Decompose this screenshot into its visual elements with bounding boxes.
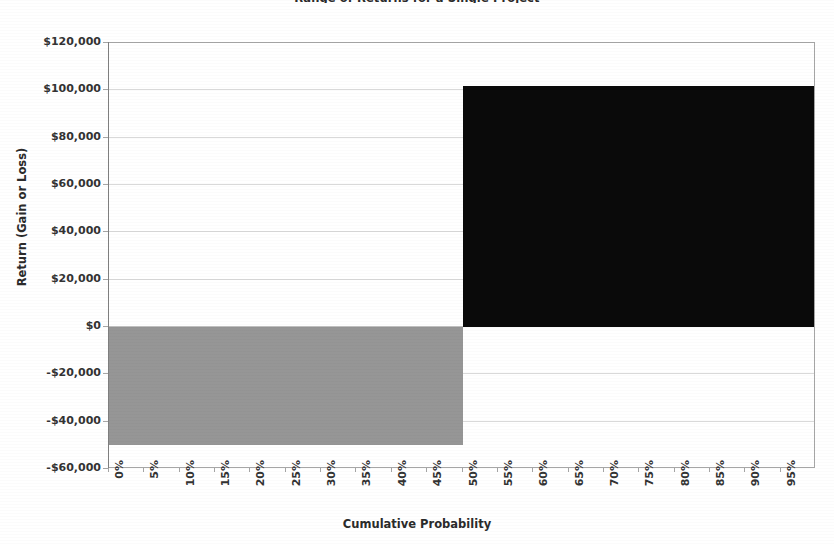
y-axis-tick-mark xyxy=(103,42,108,43)
cumulative-probability-chart: Range of Returns for a Single Project $1… xyxy=(0,0,834,544)
x-axis-tick-mark xyxy=(568,468,569,472)
x-axis-tick-label: 85% xyxy=(714,460,727,516)
x-axis-title: Cumulative Probability xyxy=(0,517,834,531)
y-axis-tick: -$40,000 xyxy=(0,414,101,428)
x-axis-tick-mark xyxy=(638,468,639,472)
y-axis-tick-mark xyxy=(103,89,108,90)
x-axis-tick-mark xyxy=(355,468,356,472)
x-axis-tick-label: 80% xyxy=(679,460,692,516)
x-axis-tick-label: 50% xyxy=(467,460,480,516)
x-axis-tick-label: 25% xyxy=(290,460,303,516)
y-axis-tick: -$20,000 xyxy=(0,366,101,380)
x-axis-tick-mark xyxy=(179,468,180,472)
y-axis-tick-label: -$20,000 xyxy=(3,366,101,379)
x-axis-tick-label: 55% xyxy=(502,460,515,516)
x-axis-tick-mark xyxy=(249,468,250,472)
x-axis-tick-mark xyxy=(532,468,533,472)
y-axis-tick-label: -$40,000 xyxy=(3,414,101,427)
x-axis-tick-label: 60% xyxy=(537,460,550,516)
x-axis-tick-mark xyxy=(462,468,463,472)
x-axis-tick-mark xyxy=(143,468,144,472)
y-axis-tick: $100,000 xyxy=(0,82,101,96)
x-axis-tick-label: 90% xyxy=(749,460,762,516)
x-axis-tick-label: 65% xyxy=(573,460,586,516)
series-region xyxy=(109,327,463,445)
x-axis-tick-label: 40% xyxy=(396,460,409,516)
y-axis-tick: -$60,000 xyxy=(0,461,101,475)
x-axis-tick-mark xyxy=(780,468,781,472)
x-axis-tick-mark xyxy=(674,468,675,472)
x-axis-tick-label: 45% xyxy=(431,460,444,516)
x-axis-tick-mark xyxy=(603,468,604,472)
x-axis-tick-mark xyxy=(497,468,498,472)
y-axis-tick-mark xyxy=(103,373,108,374)
y-axis-tick-mark xyxy=(103,421,108,422)
x-axis-tick-label: 20% xyxy=(254,460,267,516)
y-axis-tick-mark xyxy=(103,231,108,232)
x-axis-tick-label: 0% xyxy=(113,460,126,516)
plot-area xyxy=(108,42,815,468)
x-axis-tick-label: 10% xyxy=(184,460,197,516)
x-axis-tick-mark xyxy=(744,468,745,472)
y-axis-tick-label: $120,000 xyxy=(3,35,101,48)
y-axis-tick-mark xyxy=(103,326,108,327)
y-axis-tick-mark xyxy=(103,184,108,185)
x-axis-tick-label: 15% xyxy=(219,460,232,516)
x-axis-tick-mark xyxy=(426,468,427,472)
y-axis-tick-label: $100,000 xyxy=(3,82,101,95)
x-axis-tick-mark xyxy=(320,468,321,472)
y-axis-tick-mark xyxy=(103,279,108,280)
x-axis-tick-mark xyxy=(391,468,392,472)
x-axis-tick-label: 70% xyxy=(608,460,621,516)
x-axis-tick-label: 75% xyxy=(643,460,656,516)
x-axis-tick-mark xyxy=(214,468,215,472)
x-axis-tick-mark xyxy=(709,468,710,472)
x-axis-tick-mark xyxy=(285,468,286,472)
x-axis-tick-label: 30% xyxy=(325,460,338,516)
y-axis-tick: $120,000 xyxy=(0,35,101,49)
y-axis-tick-label: -$60,000 xyxy=(3,461,101,474)
x-axis-tick-mark xyxy=(108,468,109,472)
y-axis-line xyxy=(108,42,109,468)
x-axis-tick-label: 95% xyxy=(785,460,798,516)
series-region xyxy=(463,86,816,327)
y-axis-title: Return (Gain or Loss) xyxy=(15,107,29,327)
x-axis-tick-label: 35% xyxy=(360,460,373,516)
chart-title: Range of Returns for a Single Project xyxy=(0,0,834,3)
y-axis-tick-mark xyxy=(103,137,108,138)
x-axis-tick-label: 5% xyxy=(148,460,161,516)
